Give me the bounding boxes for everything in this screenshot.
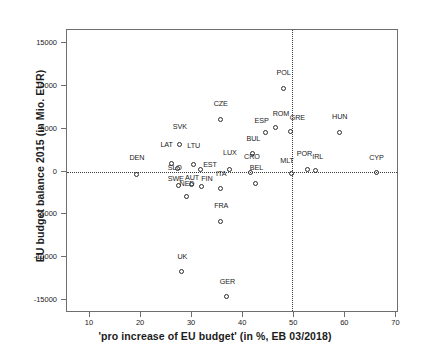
data-point-label-pol: POL bbox=[277, 68, 291, 77]
y-tick-label-15000: 15000 bbox=[0, 37, 57, 46]
data-point-rom[interactable] bbox=[273, 125, 278, 130]
x-tick-10 bbox=[89, 312, 90, 317]
x-tick-40 bbox=[242, 312, 243, 317]
y-tick-label-5000: 5000 bbox=[0, 123, 57, 132]
data-point-esp[interactable] bbox=[263, 130, 268, 135]
data-point-label-uk: UK bbox=[178, 252, 188, 261]
data-point-label-cze: CZE bbox=[214, 99, 228, 108]
x-tick-label-60: 60 bbox=[340, 318, 348, 327]
data-point-label-mlt: MLT bbox=[280, 156, 294, 165]
data-point-ita[interactable] bbox=[218, 186, 223, 191]
data-point-label-esp: ESP bbox=[255, 116, 269, 125]
x-tick-50 bbox=[293, 312, 294, 317]
data-point-pol[interactable] bbox=[281, 86, 286, 91]
data-point-label-bel: BEL bbox=[250, 163, 263, 172]
data-point-label-irl: IRL bbox=[312, 152, 323, 161]
data-point-label-ger: GER bbox=[220, 277, 235, 286]
y-tick-label-0: 0 bbox=[0, 166, 57, 175]
data-point-label-fra: FRA bbox=[214, 201, 228, 210]
x-tick-20 bbox=[140, 312, 141, 317]
x-tick-label-10: 10 bbox=[85, 318, 93, 327]
data-point-label-cro: CRO bbox=[244, 152, 260, 161]
data-point-fra[interactable] bbox=[218, 219, 223, 224]
y-tick-label-10000: 10000 bbox=[0, 80, 57, 89]
x-tick-label-50: 50 bbox=[289, 318, 297, 327]
data-point-hun[interactable] bbox=[337, 130, 342, 135]
data-point-lux[interactable] bbox=[227, 167, 232, 172]
x-tick-label-30: 30 bbox=[187, 318, 195, 327]
x-axis-title: 'pro increase of EU budget' (in %, EB 03… bbox=[0, 330, 430, 342]
data-point-ger[interactable] bbox=[224, 294, 229, 299]
data-point-label-svk: SVK bbox=[173, 122, 187, 131]
data-point-label-ltu: LTU bbox=[187, 141, 200, 150]
plot-area: DENLATSVKSLOSWENEDLTUAUTESTFINFRACZEITAL… bbox=[66, 29, 398, 312]
data-point-label-cyp: CYP bbox=[369, 153, 383, 162]
data-point-label-est: EST bbox=[203, 160, 217, 169]
x-tick-label-20: 20 bbox=[136, 318, 144, 327]
data-point-label-slo: SLO bbox=[168, 163, 182, 172]
data-point-cyp[interactable] bbox=[374, 170, 379, 175]
data-point-label-lat: LAT bbox=[160, 140, 172, 149]
data-point-label-lux: LUX bbox=[223, 148, 237, 157]
data-point-label-den: DEN bbox=[130, 153, 145, 162]
data-point-mlt[interactable] bbox=[289, 171, 294, 176]
data-point-irl[interactable] bbox=[313, 168, 318, 173]
data-point-fin[interactable] bbox=[199, 184, 204, 189]
data-point-label-por: POR bbox=[297, 149, 312, 158]
scatter-chart-figure: EU budget balance 2015 (in Mio. EUR) 'pr… bbox=[0, 0, 430, 358]
data-point-label-rom: ROM bbox=[273, 109, 289, 118]
data-point-bel[interactable] bbox=[253, 181, 258, 186]
data-point-aut[interactable] bbox=[189, 182, 194, 187]
data-point-ltu[interactable] bbox=[191, 162, 196, 167]
y-tick-label--15000: -15000 bbox=[0, 295, 57, 304]
data-point-svk[interactable] bbox=[177, 142, 182, 147]
data-point-label-bul: BUL bbox=[247, 134, 261, 143]
data-point-den[interactable] bbox=[134, 172, 139, 177]
y-tick-label--10000: -10000 bbox=[0, 252, 57, 261]
x-tick-60 bbox=[344, 312, 345, 317]
data-point-label-fin: FIN bbox=[201, 174, 212, 183]
x-tick-label-70: 70 bbox=[391, 318, 399, 327]
data-point-label-ita: ITA bbox=[216, 169, 226, 178]
data-point-label-hun: HUN bbox=[332, 112, 347, 121]
data-point-label-aut: AUT bbox=[185, 173, 199, 182]
data-point-label-gre: GRE bbox=[290, 113, 305, 122]
y-tick-label--5000: -5000 bbox=[0, 209, 57, 218]
data-point-por[interactable] bbox=[305, 167, 310, 172]
data-point-uk[interactable] bbox=[179, 269, 184, 274]
data-point-cze[interactable] bbox=[218, 117, 223, 122]
x-tick-label-40: 40 bbox=[238, 318, 246, 327]
zero-balance-reference-line bbox=[67, 172, 397, 173]
x-tick-70 bbox=[395, 312, 396, 317]
x-tick-30 bbox=[191, 312, 192, 317]
data-point-ned[interactable] bbox=[184, 194, 189, 199]
